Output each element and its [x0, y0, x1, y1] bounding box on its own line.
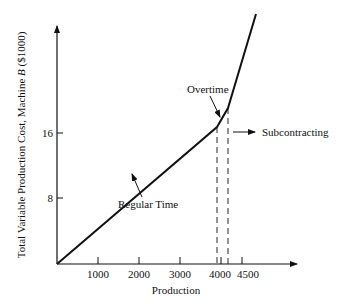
- x-tick-label-4000: 4000: [209, 268, 232, 280]
- regular-time-label: Regular Time: [118, 198, 178, 210]
- y-ticks: 8 16: [42, 127, 63, 204]
- cost-curve: [57, 14, 256, 264]
- regular-time-arrow: [132, 174, 142, 197]
- overtime-label: Overtime: [187, 83, 229, 95]
- cost-chart: 8 16 1000 2000 3000 4000 4500 Regular Ti…: [0, 0, 346, 308]
- x-ticks: 1000 2000 3000 4000 4500: [87, 257, 260, 280]
- overtime-arrow: [210, 96, 220, 117]
- x-tick-label-4500: 4500: [237, 268, 260, 280]
- y-tick-label-8: 8: [48, 192, 54, 204]
- x-tick-label-2000: 2000: [128, 268, 151, 280]
- y-tick-label-16: 16: [42, 127, 54, 139]
- x-tick-label-1000: 1000: [87, 268, 110, 280]
- y-axis-label: Total Variable Production Cost, Machine …: [15, 31, 28, 258]
- x-axis-label: Production: [152, 284, 201, 296]
- subcontracting-label: Subcontracting: [262, 126, 329, 138]
- x-tick-label-3000: 3000: [169, 268, 192, 280]
